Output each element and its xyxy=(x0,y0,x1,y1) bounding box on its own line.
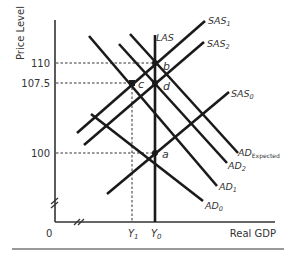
y-tick-100: 100 xyxy=(31,148,50,159)
point-a xyxy=(152,150,158,156)
y-tick-107-5: 107.5 xyxy=(21,78,50,89)
ad-as-diagram: b c d a Price Level 110 107.5 100 0 Y1 Y… xyxy=(0,0,292,256)
origin-label: 0 xyxy=(46,228,52,239)
point-b xyxy=(152,60,158,66)
point-c-label: c xyxy=(138,78,144,91)
point-a-label: a xyxy=(162,148,169,161)
ad-expected-curve xyxy=(130,34,238,153)
point-d xyxy=(152,80,158,86)
las-label: LAS xyxy=(156,32,174,43)
point-c xyxy=(129,80,135,86)
point-b-label: b xyxy=(163,60,170,73)
ad2-curve xyxy=(119,44,227,163)
x-tick-y1: Y1 xyxy=(128,228,139,241)
sas1-label: SAS1 xyxy=(208,15,231,28)
ad1-label: AD1 xyxy=(218,181,237,194)
x-axis-label: Real GDP xyxy=(230,228,276,239)
point-d-label: d xyxy=(163,80,171,93)
ad0-label: AD0 xyxy=(204,200,223,213)
x-tick-y0: Y0 xyxy=(151,228,162,241)
ad2-label: AD2 xyxy=(227,160,246,173)
sas0-label: SAS0 xyxy=(231,88,254,101)
sas2-label: SAS2 xyxy=(207,38,230,51)
y-axis-label: Price Level xyxy=(15,6,26,60)
ad-expected-label: ADExpected xyxy=(237,147,280,160)
y-tick-110: 110 xyxy=(31,58,50,69)
